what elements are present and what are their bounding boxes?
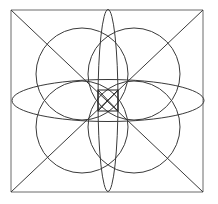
petal-circle-top-right — [88, 28, 180, 120]
petal-circle-bottom-left — [36, 81, 128, 173]
geometric-figure — [0, 0, 218, 204]
petal-circle-top-left — [36, 28, 128, 120]
figure-canvas — [0, 0, 218, 204]
